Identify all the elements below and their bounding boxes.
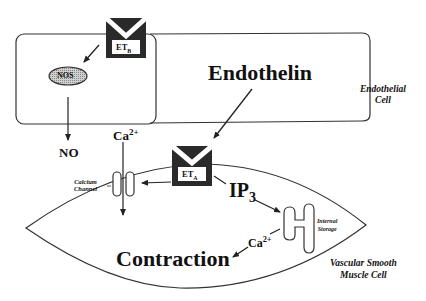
endothelial-cell-label-line1: Endothelial	[360, 85, 406, 95]
endothelin-to-eta-arrow	[214, 89, 252, 138]
smooth-muscle-label-line1: Vascular Smooth	[330, 259, 397, 269]
internal-storage	[284, 204, 314, 253]
calcium-top-superscript: 2+	[129, 127, 139, 137]
et-a-label: ETA	[182, 170, 198, 182]
et-b-label: ETB	[116, 43, 131, 55]
eta-to-ip3-line	[214, 176, 226, 184]
ip3-subscript: 3	[249, 190, 256, 205]
calcium-bottom-label: Ca2+	[248, 236, 272, 249]
ip3-to-storage-arrow	[255, 200, 280, 212]
smooth-muscle-cell-label: Vascular Smooth Muscle Cell	[330, 259, 397, 280]
smooth-muscle-label-line2: Muscle Cell	[330, 271, 397, 281]
endothelin-title: Endothelin	[208, 62, 312, 84]
calcium-top-text: Ca	[113, 128, 129, 143]
calcium-to-contraction-arrow	[233, 247, 248, 257]
et-a-text: ET	[182, 169, 193, 179]
endothelial-cell-label-line2: Cell	[360, 96, 406, 106]
calcium-channel-line2: Channel	[74, 186, 97, 193]
et-b-subscript: B	[127, 48, 131, 54]
et-a-subscript: A	[193, 175, 197, 181]
eta-to-channel-arrow	[142, 182, 171, 183]
no-label: NO	[59, 146, 79, 159]
etb-to-nos-arrow	[84, 45, 99, 62]
internal-storage-line1: Internal	[317, 218, 337, 224]
endothelial-cell-label: Endothelial Cell	[360, 85, 406, 105]
ip3-label: IP3	[229, 180, 256, 205]
et-b-text: ET	[116, 42, 127, 52]
storage-release-line	[270, 229, 280, 234]
calcium-top-label: Ca2+	[113, 128, 139, 142]
nos-label: NOS	[57, 72, 73, 80]
calcium-bottom-superscript: 2+	[263, 235, 272, 244]
contraction-label: Contraction	[116, 248, 230, 270]
internal-storage-label: Internal Storage	[317, 218, 337, 232]
internal-storage-line2: Storage	[317, 226, 337, 232]
ip3-text: IP	[229, 179, 249, 201]
calcium-bottom-text: Ca	[248, 236, 263, 250]
calcium-channel-label: Calcium Channel	[74, 179, 97, 192]
